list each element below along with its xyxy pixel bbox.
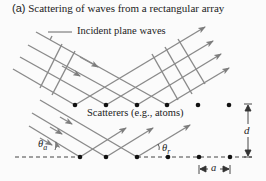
incident-waves-label: Incident plane waves (77, 25, 166, 36)
scattering-diagram: (a) Scattering of waves from a rectangul… (0, 0, 266, 181)
upper-rays (13, 27, 229, 105)
d-label: d (244, 124, 250, 136)
theta-r-arc (158, 144, 159, 150)
theta-a-arc (55, 142, 56, 150)
theta-r-subscript: r (167, 147, 170, 156)
theta-r-label: θr (162, 142, 170, 156)
theta-a-label: θa (38, 138, 47, 152)
theta-a-subscript: a (43, 143, 47, 152)
a-label: a (211, 162, 216, 173)
scatterers-label: Scatterers (e.g., atoms) (87, 107, 184, 118)
